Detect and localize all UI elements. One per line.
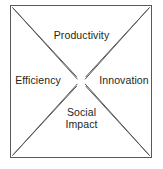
- quadrant-label-innovation: Innovation: [96, 74, 152, 86]
- wedge-left-top-edge: [13, 8, 78, 80]
- quadrant-diagram: Productivity Efficiency Innovation Socia…: [0, 0, 163, 169]
- quadrant-label-social-impact-line2: Impact: [0, 118, 163, 130]
- quadrant-label-social-impact: Social Impact: [0, 106, 163, 130]
- quadrant-label-efficiency: Efficiency: [10, 74, 66, 86]
- quadrant-label-productivity: Productivity: [0, 29, 163, 41]
- wedge-top: [13, 8, 150, 78]
- wedge-right-top-edge: [85, 8, 150, 80]
- quadrant-label-social-impact-line1: Social: [0, 106, 163, 118]
